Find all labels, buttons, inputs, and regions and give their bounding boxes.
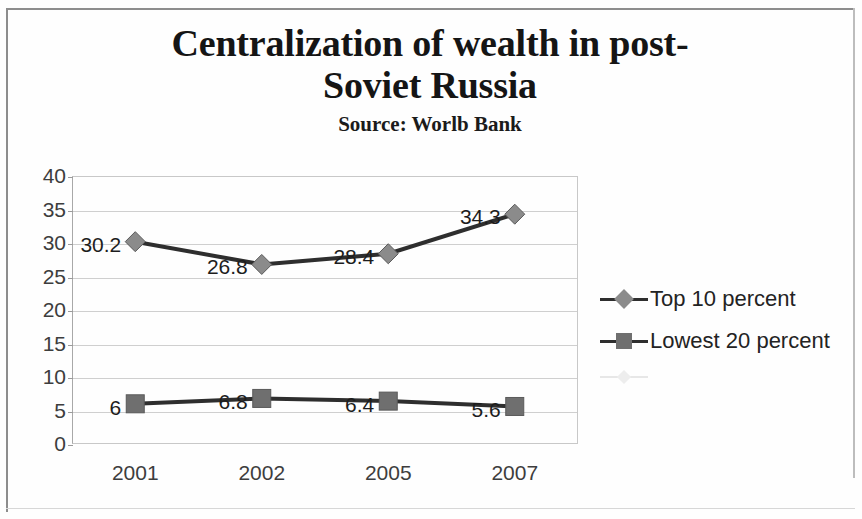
x-axis-tick-label: 2007 <box>491 462 538 484</box>
data-point-label: 5.6 <box>472 399 501 420</box>
x-axis-tick-label: 2001 <box>112 462 159 484</box>
x-axis-tick-label: 2002 <box>238 462 285 484</box>
data-point-label: 34.3 <box>460 206 501 227</box>
data-point-marker[interactable] <box>252 254 272 274</box>
chart-plot-wrapper: 0510152025303540 2001200220052007 30.226… <box>0 0 862 519</box>
series-line-1 <box>135 398 515 406</box>
data-point-label: 28.4 <box>333 245 374 266</box>
y-axis-labels: 0510152025303540 <box>14 176 66 444</box>
legend-item-top-10-percent[interactable]: Top 10 percent <box>598 278 848 320</box>
y-axis-tick-label: 25 <box>20 266 66 287</box>
y-axis-tick-label: 10 <box>20 366 66 387</box>
y-axis-tick-label: 5 <box>20 400 66 421</box>
y-axis-tick-label: 20 <box>20 299 66 320</box>
data-point-marker[interactable] <box>378 244 398 264</box>
data-point-label: 6.8 <box>219 391 248 412</box>
data-point-marker[interactable] <box>379 392 397 410</box>
data-point-marker[interactable] <box>506 397 524 415</box>
scanned-chart-page: Centralization of wealth in post- Soviet… <box>0 0 862 519</box>
legend-label-top-10-percent: Top 10 percent <box>650 287 796 311</box>
x-axis-tick-label: 2005 <box>365 462 412 484</box>
data-point-marker[interactable] <box>125 232 145 252</box>
legend-faint-marker-icon <box>598 366 650 388</box>
data-point-label: 26.8 <box>207 256 248 277</box>
y-axis-tick-label: 15 <box>20 333 66 354</box>
x-axis-labels: 2001200220052007 <box>72 462 578 492</box>
chart-series-layer <box>72 176 578 444</box>
legend-square-marker-icon <box>598 330 650 352</box>
y-axis-tick-label: 40 <box>20 165 66 186</box>
data-point-label: 6 <box>110 396 122 417</box>
legend-item-faint-artifact <box>598 362 848 392</box>
y-axis-tick-label: 35 <box>20 199 66 220</box>
y-axis-tick-label: 0 <box>20 433 66 454</box>
data-point-marker[interactable] <box>505 204 525 224</box>
data-point-marker[interactable] <box>126 395 144 413</box>
series-line-0 <box>135 214 515 264</box>
chart-legend: Top 10 percent Lowest 20 percent <box>598 278 848 392</box>
y-axis-tick-label: 30 <box>20 232 66 253</box>
data-point-label: 6.4 <box>345 394 374 415</box>
data-point-marker[interactable] <box>253 389 271 407</box>
legend-label-lowest-20-percent: Lowest 20 percent <box>650 329 830 353</box>
y-axis-tick <box>68 445 73 446</box>
legend-diamond-marker-icon <box>598 288 650 310</box>
legend-item-lowest-20-percent[interactable]: Lowest 20 percent <box>598 320 848 362</box>
data-point-label: 30.2 <box>80 233 121 254</box>
